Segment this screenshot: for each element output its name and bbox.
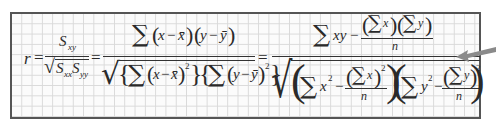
sigma: ∑: [449, 63, 463, 85]
x: x: [367, 68, 372, 83]
rparen: ): [186, 22, 193, 48]
sigma-num-3: ∑: [313, 20, 330, 48]
equals-3: =: [258, 48, 268, 68]
n: n: [392, 39, 398, 54]
ybar: ȳ: [220, 27, 227, 44]
square: 2: [185, 61, 190, 71]
minus: −: [209, 27, 217, 44]
sigma-den-2a: ∑: [128, 60, 145, 88]
sigma-num-2: ∑: [132, 20, 149, 48]
minus: −: [434, 78, 442, 95]
n: n: [456, 89, 462, 104]
minus: −: [161, 66, 169, 83]
y: y: [418, 16, 423, 31]
x: x: [383, 16, 388, 31]
x: x: [158, 27, 165, 44]
radical-1: √: [44, 55, 55, 78]
sigma-den-3a: ∑: [300, 72, 317, 100]
xy: xy: [333, 27, 346, 44]
s-xy-sub: xy: [68, 42, 76, 52]
lhs-r: r: [24, 49, 31, 69]
s-xy-base: S: [59, 33, 67, 50]
sigma: ∑: [352, 63, 366, 85]
xbar: x̄: [178, 27, 185, 44]
y: y: [464, 68, 469, 83]
n: n: [361, 89, 367, 104]
ybar: ȳ: [251, 66, 258, 83]
radical-3: √: [271, 52, 292, 108]
minus: −: [241, 66, 249, 83]
sigma-den-3b: ∑: [401, 72, 418, 100]
sigma: ∑: [403, 11, 417, 33]
s-yy-sub: yy: [80, 69, 88, 79]
arrow-left-icon: [454, 44, 497, 64]
s-yy-base: S: [72, 60, 80, 77]
y: y: [233, 66, 240, 83]
equals-1: =: [34, 48, 44, 68]
minus: −: [167, 27, 175, 44]
xbar: x̄: [171, 66, 178, 83]
rparen: ): [228, 22, 235, 48]
rparen: ): [425, 12, 432, 38]
square: 2: [328, 73, 333, 83]
s-xx-sub: xx: [64, 69, 72, 79]
minus: −: [350, 27, 358, 44]
x: x: [153, 66, 160, 83]
x: x: [320, 78, 327, 95]
sigma-den-2b: ∑: [208, 60, 225, 88]
minus: −: [335, 78, 343, 95]
y: y: [200, 27, 207, 44]
square: 2: [428, 73, 433, 83]
y: y: [421, 78, 428, 95]
equals-2: =: [91, 48, 101, 68]
fraction-bar-2: [103, 56, 255, 57]
square: 2: [381, 63, 386, 73]
sigma: ∑: [368, 11, 382, 33]
s-xx-base: S: [56, 60, 64, 77]
